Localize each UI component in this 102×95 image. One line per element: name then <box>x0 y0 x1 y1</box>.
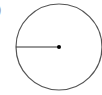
circle-diagram: ) <box>0 0 102 95</box>
circle-figure <box>0 0 102 95</box>
center-point <box>57 45 61 49</box>
figure-label: ) <box>0 4 2 18</box>
